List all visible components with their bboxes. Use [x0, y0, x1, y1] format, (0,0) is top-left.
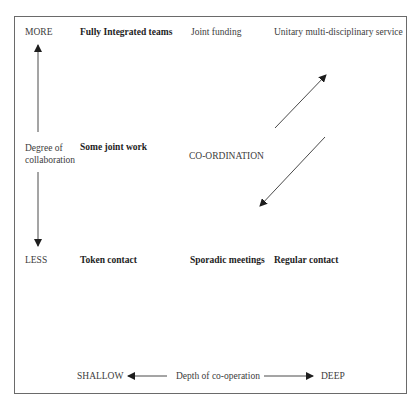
unitary-service-label: Unitary multi-disciplinary service [274, 27, 403, 38]
joint-funding-label: Joint funding [191, 27, 241, 38]
some-joint-work-label: Some joint work [80, 142, 147, 153]
collaboration-label: collaboration [25, 155, 75, 166]
shallow-label: SHALLOW [77, 371, 123, 382]
more-label: MORE [25, 27, 52, 38]
token-contact-label: Token contact [80, 255, 137, 266]
depth-of-cooperation-label: Depth of co-operation [176, 371, 260, 382]
less-label: LESS [25, 255, 47, 266]
sporadic-meetings-label: Sporadic meetings [190, 255, 265, 266]
deep-label: DEEP [321, 371, 345, 382]
fully-integrated-teams-label: Fully Integrated teams [80, 27, 172, 38]
coordination-label: CO-ORDINATION [189, 151, 264, 162]
degree-label: Degree of [25, 143, 63, 154]
diagram-frame [14, 16, 407, 394]
regular-contact-label: Regular contact [274, 255, 338, 266]
